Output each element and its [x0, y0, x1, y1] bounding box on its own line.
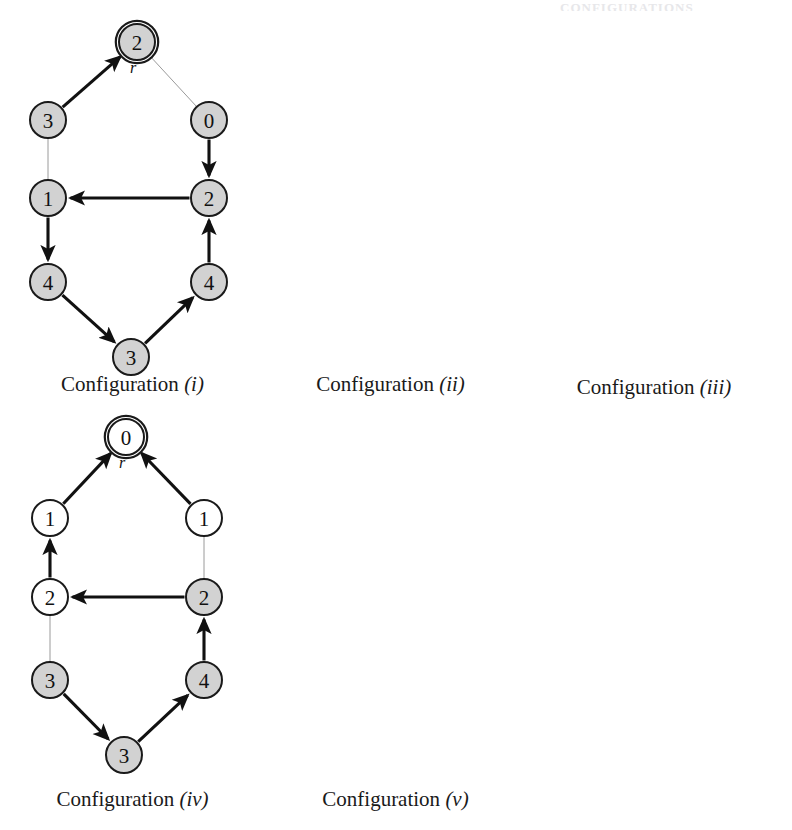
directed-edge [63, 453, 110, 503]
caption-prefix: Configuration [56, 787, 179, 811]
root-node[interactable]: 0r [105, 416, 147, 471]
caption-prefix: Configuration [322, 787, 445, 811]
node-label: 3 [45, 669, 56, 693]
node-label: 2 [199, 586, 210, 610]
configuration-caption-v: Configuration (v) [258, 787, 533, 812]
graph-node[interactable]: 1 [32, 500, 68, 536]
caption-numeral: (v) [445, 787, 468, 811]
node-label: 3 [119, 744, 130, 768]
directed-edge [64, 694, 108, 739]
root-marker-label: r [119, 454, 126, 471]
configuration-graph-v: 0r1234123 [258, 0, 533, 830]
directed-edge [138, 695, 187, 741]
graph-node[interactable]: 4 [186, 662, 222, 698]
caption-numeral: (iii) [700, 375, 732, 399]
graph-node[interactable]: 3 [106, 737, 142, 773]
graph-node[interactable]: 1 [186, 500, 222, 536]
configuration-caption-iii: Configuration (iii) [516, 375, 792, 400]
node-label: 1 [45, 507, 56, 531]
caption-prefix: Configuration [577, 375, 700, 399]
graph-node[interactable]: 3 [32, 662, 68, 698]
node-label: 4 [199, 669, 210, 693]
caption-numeral: (iv) [179, 787, 208, 811]
configuration-graph-iv: 0r1233124 [0, 0, 265, 830]
graph-node[interactable]: 2 [32, 579, 68, 615]
configuration-panel-iii: 0r1243142Configuration (iii) [516, 0, 792, 410]
figure-sheet: CONFIGURATIONS 2r3143024Configuration (i… [0, 0, 792, 830]
configuration-caption-iv: Configuration (iv) [0, 787, 265, 812]
configuration-panel-v: 0r1234123Configuration (v) [258, 0, 533, 830]
node-label: 1 [199, 507, 210, 531]
directed-edge [142, 453, 191, 504]
node-label: 0 [121, 426, 132, 450]
graph-node[interactable]: 2 [186, 579, 222, 615]
configuration-panel-iv: 0r1233124Configuration (iv) [0, 0, 265, 830]
configuration-graph-iii: 0r1243142 [516, 0, 792, 410]
node-label: 2 [45, 586, 56, 610]
